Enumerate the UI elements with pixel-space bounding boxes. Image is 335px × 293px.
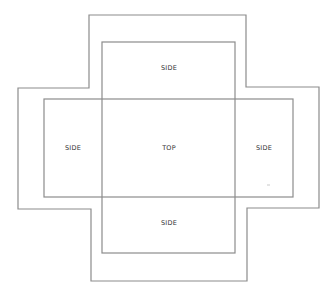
box-net-diagram: SIDE TOP SIDE SIDE SIDE <box>0 0 335 293</box>
panel-label-right-side: SIDE <box>256 144 272 152</box>
panel-label-bottom-side: SIDE <box>161 219 177 227</box>
panel-label-left-side: SIDE <box>65 144 81 152</box>
panel-label-top-side: SIDE <box>161 64 177 72</box>
panel-label-center-top: TOP <box>161 144 176 152</box>
